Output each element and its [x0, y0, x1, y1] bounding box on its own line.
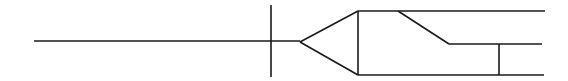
diagonal-branch	[398, 11, 449, 44]
splitter-lower-edge	[300, 42, 358, 75]
line-schematic-diagram	[0, 0, 568, 81]
splitter-upper-edge	[300, 11, 358, 42]
